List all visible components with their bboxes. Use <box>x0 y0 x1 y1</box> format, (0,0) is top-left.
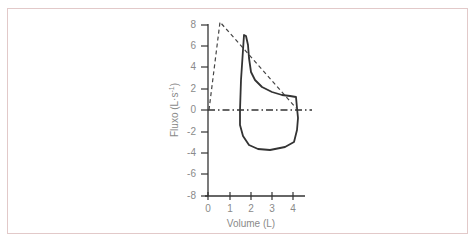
svg-text:4: 4 <box>290 203 296 214</box>
svg-text:8: 8 <box>190 19 196 30</box>
svg-text:3: 3 <box>269 203 275 214</box>
svg-text:2: 2 <box>190 83 196 94</box>
predicted-curve-dashed <box>209 22 296 110</box>
svg-text:0: 0 <box>205 203 211 214</box>
svg-text:4: 4 <box>190 61 196 72</box>
svg-text:-2: -2 <box>187 126 196 137</box>
svg-text:-6: -6 <box>187 168 196 179</box>
x-tick-labels: 0 1 2 3 4 <box>205 203 296 214</box>
x-axis-label: Volume (L) <box>227 218 275 229</box>
svg-text:6: 6 <box>190 40 196 51</box>
y-ticks <box>201 25 208 196</box>
y-axis-label: Fluxo (L·s-1) <box>168 83 180 137</box>
svg-text:1: 1 <box>227 203 233 214</box>
svg-text:0: 0 <box>190 104 196 115</box>
measured-flow-volume-loop <box>240 35 298 150</box>
svg-text:-8: -8 <box>187 190 196 201</box>
svg-text:2: 2 <box>248 203 254 214</box>
svg-text:-4: -4 <box>187 147 196 158</box>
flow-volume-chart: 8 6 4 2 0 -2 -4 -6 -8 0 1 2 3 4 Volume (… <box>0 0 476 243</box>
y-tick-labels: 8 6 4 2 0 -2 -4 -6 -8 <box>187 19 196 201</box>
